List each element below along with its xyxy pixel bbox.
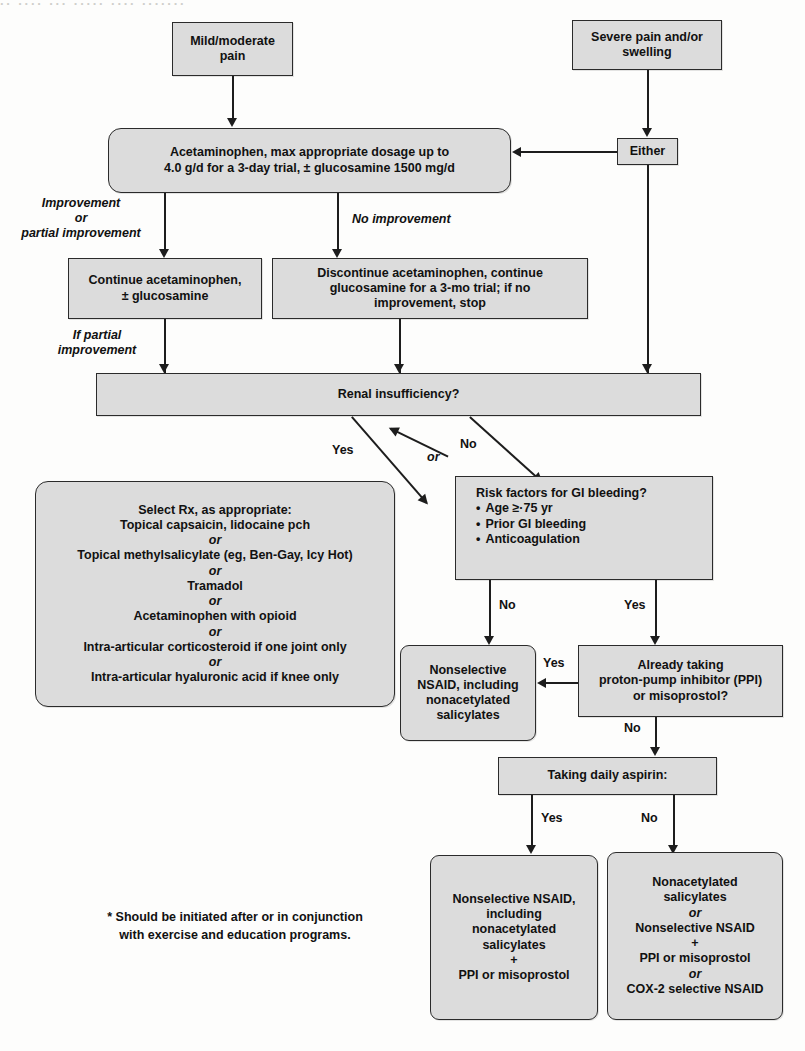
- outcome-alternatives-line5: COX-2 selective NSAID: [614, 982, 776, 997]
- risk-factor-bullet: Anticoagulation: [476, 532, 706, 547]
- select-rx-line7: Intra-articular hyaluronic acid if knee …: [42, 670, 388, 685]
- outcome-with-ppi-line5: PPI or misoprostol: [437, 968, 591, 983]
- risk-factor-bullet: Prior GI bleeding: [476, 517, 706, 532]
- arrowhead-either-to-renal: [642, 364, 652, 373]
- discontinue-acetaminophen-line2: glucosamine for a 3-mo trial; if no: [279, 281, 581, 296]
- arrowhead-renal-yes: [418, 494, 432, 508]
- arrowhead-risk-no: [484, 636, 494, 645]
- flowchart-canvas: ·· ···· ··· ····· ···· ······· Mild/mode…: [0, 0, 805, 1051]
- select-rx-or5: or: [42, 655, 388, 670]
- discontinue-acetaminophen-line3: improvement, stop: [279, 296, 581, 311]
- if-partial-line1: If partial: [38, 328, 156, 343]
- footnote-line1: * Should be initiated after or in conjun…: [60, 908, 410, 926]
- connector-either-to-acetaminophen: [521, 151, 617, 153]
- select-rx-or1: or: [42, 533, 388, 548]
- arrowhead-acetaminophen-to-continue: [159, 249, 169, 258]
- mild-moderate-pain-line2: pain: [179, 49, 286, 64]
- arrowhead-acetaminophen-to-discontinue: [332, 249, 342, 258]
- arrowhead-severe-to-either: [642, 128, 652, 137]
- node-already-taking-ppi: Already taking proton-pump inhibitor (PP…: [578, 645, 783, 717]
- risk-factors-heading: Risk factors for GI bleeding?: [476, 486, 706, 501]
- already-taking-ppi-line1: Already taking: [585, 658, 776, 673]
- node-select-rx: Select Rx, as appropriate: Topical capsa…: [35, 481, 395, 707]
- improvement-line1: Improvement: [6, 196, 156, 211]
- arrowhead-risk-yes: [650, 636, 660, 645]
- connector-risk-no: [489, 580, 491, 638]
- node-outcome-alternatives: Nonacetylated salicylates or Nonselectiv…: [607, 852, 783, 1020]
- edge-label-aspirin-yes: Yes: [541, 811, 563, 826]
- edge-label-risk-yes: Yes: [624, 598, 646, 613]
- select-rx-line1: Select Rx, as appropriate:: [42, 503, 388, 518]
- outcome-with-ppi-plus: +: [437, 953, 591, 968]
- edge-label-ppi-no: No: [624, 721, 641, 736]
- connector-either-to-renal: [647, 165, 649, 373]
- outcome-with-ppi-line3: nonacetylated: [437, 922, 591, 937]
- outcome-alternatives-plus: +: [614, 936, 776, 951]
- taking-daily-aspirin-label: Taking daily aspirin:: [505, 768, 710, 783]
- outcome-alternatives-line3: Nonselective NSAID: [614, 921, 776, 936]
- node-nonselective-nsaid: Nonselective NSAID, including nonacetyla…: [400, 645, 536, 741]
- outcome-with-ppi-line1: Nonselective NSAID,: [437, 892, 591, 907]
- select-rx-line4: Tramadol: [42, 579, 388, 594]
- outcome-alternatives-line2: salicylates: [614, 890, 776, 905]
- mild-moderate-pain-line1: Mild/moderate: [179, 34, 286, 49]
- edge-label-renal-yes: Yes: [332, 443, 354, 458]
- outcome-alternatives-line4: PPI or misoprostol: [614, 951, 776, 966]
- arrowhead-continue-to-renal: [159, 364, 169, 373]
- node-renal-insufficiency: Renal insufficiency?: [96, 373, 701, 416]
- scan-bleed-text: ·· ···· ··· ····· ···· ·······: [0, 0, 805, 12]
- continue-acetaminophen-line1: Continue acetaminophen,: [75, 273, 255, 288]
- connector-risk-yes: [655, 580, 657, 638]
- acetaminophen-trial-line1: Acetaminophen, max appropriate dosage up…: [115, 145, 504, 160]
- nonselective-nsaid-line3: nonacetylated: [407, 693, 529, 708]
- outcome-alternatives-or1: or: [614, 906, 776, 921]
- arrowhead-discontinue-to-renal: [394, 364, 404, 373]
- if-partial-line2: improvement: [38, 343, 156, 358]
- discontinue-acetaminophen-line1: Discontinue acetaminophen, continue: [279, 266, 581, 281]
- connector-ppi-yes-to-nsaid: [546, 682, 578, 684]
- connector-aspirin-no: [673, 795, 675, 847]
- renal-insufficiency-label: Renal insufficiency?: [103, 387, 694, 402]
- edge-label-ppi-yes: Yes: [543, 656, 565, 671]
- outcome-with-ppi-line2: including: [437, 907, 591, 922]
- connector-severe-to-either: [647, 70, 649, 130]
- improvement-line3: partial improvement: [6, 226, 156, 241]
- select-rx-line3: Topical methylsalicylate (eg, Ben-Gay, I…: [42, 548, 388, 563]
- node-mild-moderate-pain: Mild/moderate pain: [172, 22, 293, 76]
- already-taking-ppi-line2: proton-pump inhibitor (PPI): [585, 673, 776, 688]
- select-rx-or2: or: [42, 564, 388, 579]
- outcome-alternatives-line1: Nonacetylated: [614, 875, 776, 890]
- node-taking-daily-aspirin: Taking daily aspirin:: [498, 757, 717, 795]
- edge-label-improvement: Improvement or partial improvement: [6, 196, 156, 240]
- connector-acetaminophen-to-discontinue: [337, 193, 339, 251]
- select-rx-line5: Acetaminophen with opioid: [42, 609, 388, 624]
- edge-label-renal-or: or: [427, 450, 440, 465]
- nonselective-nsaid-line1: Nonselective: [407, 663, 529, 678]
- connector-mild-to-acetaminophen: [232, 76, 234, 120]
- node-risk-factors: Risk factors for GI bleeding? Age ≥·75 y…: [455, 476, 713, 580]
- arrowhead-aspirin-yes: [526, 845, 536, 854]
- select-rx-or3: or: [42, 594, 388, 609]
- node-either: Either: [617, 138, 678, 165]
- severe-pain-line2: swelling: [579, 45, 715, 60]
- connector-renal-no: [469, 416, 541, 481]
- edge-label-aspirin-no: No: [641, 811, 658, 826]
- connector-ppi-no-to-aspirin: [655, 717, 657, 749]
- arrowhead-ppi-yes-to-nsaid: [537, 678, 546, 688]
- outcome-alternatives-or2: or: [614, 967, 776, 982]
- footnote: * Should be initiated after or in conjun…: [60, 908, 410, 944]
- arrowhead-ppi-no-to-aspirin: [650, 747, 660, 756]
- severe-pain-line1: Severe pain and/or: [579, 30, 715, 45]
- arrowhead-renal-or: [386, 423, 399, 436]
- node-severe-pain: Severe pain and/or swelling: [572, 20, 722, 70]
- acetaminophen-trial-line2: 4.0 g/d for a 3-day trial, ± glucosamine…: [115, 161, 504, 176]
- footnote-line2: with exercise and education programs.: [60, 926, 410, 944]
- outcome-with-ppi-line4: salicylates: [437, 938, 591, 953]
- nonselective-nsaid-line4: salicylates: [407, 708, 529, 723]
- continue-acetaminophen-line2: ± glucosamine: [75, 289, 255, 304]
- already-taking-ppi-line3: or misoprostol?: [585, 689, 776, 704]
- either-label: Either: [624, 144, 671, 159]
- connector-aspirin-yes: [531, 795, 533, 847]
- improvement-line2: or: [6, 211, 156, 226]
- edge-label-no-improvement: No improvement: [352, 212, 451, 227]
